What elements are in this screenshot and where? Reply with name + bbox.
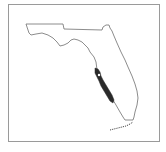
shaded-range: [95, 68, 114, 103]
florida-state-outline: [26, 24, 138, 120]
florida-keys: [110, 122, 133, 130]
florida-map: [0, 0, 166, 152]
shaded-range-gap: [98, 74, 100, 76]
